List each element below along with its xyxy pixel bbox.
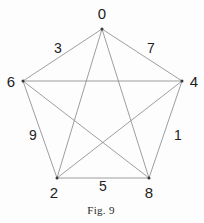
graph-vertex-dot [101, 28, 104, 31]
vertex-label-6: 6 [7, 74, 15, 89]
vertex-label-4: 4 [190, 74, 198, 89]
graph-edge [23, 29, 102, 81]
graph-edge [102, 29, 149, 178]
vertex-dot-group [22, 28, 184, 180]
edge-label-9: 9 [29, 128, 37, 142]
edge-label-1: 1 [174, 128, 182, 142]
edge-label-3: 3 [54, 41, 62, 55]
graph-edge [102, 29, 182, 81]
figure-caption: Fig. 9 [87, 204, 114, 216]
edge-group [23, 29, 182, 178]
graph-edge [23, 81, 57, 178]
graph-edge [57, 29, 102, 178]
vertex-label-2: 2 [50, 185, 58, 200]
vertex-label-0: 0 [98, 6, 106, 21]
edge-label-5: 5 [99, 179, 107, 193]
graph-edge [57, 81, 182, 178]
edge-label-7: 7 [147, 41, 155, 55]
graph-vertex-dot [22, 80, 25, 83]
graph-vertex-dot [148, 177, 151, 180]
graph-edge [23, 81, 149, 178]
vertex-label-8: 8 [145, 185, 153, 200]
graph-vertex-dot [181, 80, 184, 83]
graph-vertex-dot [56, 177, 59, 180]
figure-container: 04826 37915 Fig. 9 [0, 0, 204, 223]
